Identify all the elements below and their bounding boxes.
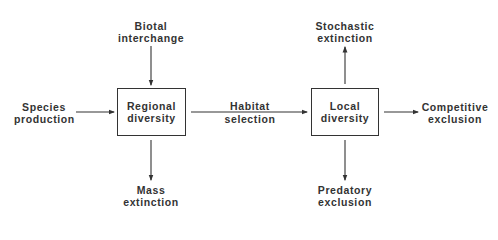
habitat-line1: Habitat: [220, 100, 280, 113]
regional-label: Regional diversity: [127, 100, 176, 124]
label-stochastic-extinction: Stochastic extinction: [310, 20, 380, 44]
stochastic-line1: Stochastic: [310, 20, 380, 32]
label-habitat-selection: Habitat selection: [220, 100, 280, 126]
species-line1: Species: [14, 101, 74, 113]
habitat-line2: selection: [220, 113, 280, 126]
competitive-line1: Competitive: [420, 101, 490, 113]
local-line1: Local: [321, 100, 370, 112]
competitive-line2: exclusion: [420, 113, 490, 125]
biotal-line2: interchange: [118, 32, 184, 44]
stochastic-line2: extinction: [310, 32, 380, 44]
label-competitive-exclusion: Competitive exclusion: [420, 101, 490, 125]
regional-line1: Regional: [127, 100, 176, 112]
mass-line1: Mass: [121, 184, 181, 196]
local-line2: diversity: [321, 112, 370, 124]
node-regional-diversity: Regional diversity: [117, 88, 186, 136]
label-species-production: Species production: [14, 101, 74, 125]
label-biotal-interchange: Biotal interchange: [118, 20, 184, 44]
node-local-diversity: Local diversity: [311, 88, 379, 136]
regional-line2: diversity: [127, 112, 176, 124]
species-line2: production: [14, 113, 74, 125]
predatory-line2: exclusion: [312, 196, 378, 208]
mass-line2: extinction: [121, 196, 181, 208]
label-predatory-exclusion: Predatory exclusion: [312, 184, 378, 208]
biotal-line1: Biotal: [118, 20, 184, 32]
label-mass-extinction: Mass extinction: [121, 184, 181, 208]
local-label: Local diversity: [321, 100, 370, 124]
predatory-line1: Predatory: [312, 184, 378, 196]
